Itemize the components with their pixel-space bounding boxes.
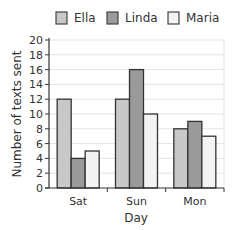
y-tick-label: 4	[36, 152, 43, 165]
bar-linda-mon	[188, 121, 202, 188]
bar-linda-sun	[130, 70, 144, 188]
y-tick-label: 14	[29, 78, 43, 91]
y-tick-label: 20	[29, 34, 43, 47]
y-tick-label: 2	[36, 167, 43, 180]
legend-label-maria: Maria	[186, 11, 219, 25]
legend-swatch-linda	[107, 12, 118, 24]
bar-maria-mon	[202, 136, 216, 188]
y-tick-label: 16	[29, 64, 43, 77]
bar-maria-sun	[144, 114, 158, 188]
y-tick-label: 8	[36, 123, 43, 136]
bar-maria-sat	[85, 151, 99, 188]
x-tick-label-sat: Sat	[69, 195, 88, 208]
legend-swatch-maria	[168, 12, 179, 24]
chart-legend: EllaLindaMaria	[56, 11, 219, 25]
bar-linda-sat	[71, 158, 85, 188]
y-tick-label: 18	[29, 49, 43, 62]
x-tick-label-mon: Mon	[183, 195, 206, 208]
grouped-bar-chart: EllaLindaMaria 02468101214161820SatSunMo…	[0, 0, 232, 230]
legend-label-ella: Ella	[74, 11, 96, 25]
y-tick-label: 10	[29, 108, 43, 121]
bar-ella-sat	[57, 99, 71, 188]
y-tick-label: 6	[36, 138, 43, 151]
y-tick-label: 12	[29, 93, 43, 106]
legend-label-linda: Linda	[125, 11, 158, 25]
x-axis-title: Day	[124, 211, 148, 225]
x-tick-label-sun: Sun	[126, 195, 147, 208]
y-tick-label: 0	[36, 182, 43, 195]
legend-swatch-ella	[56, 12, 67, 24]
y-axis-title: Number of texts sent	[10, 50, 24, 177]
bar-ella-mon	[174, 129, 188, 188]
bar-ella-sun	[116, 99, 130, 188]
